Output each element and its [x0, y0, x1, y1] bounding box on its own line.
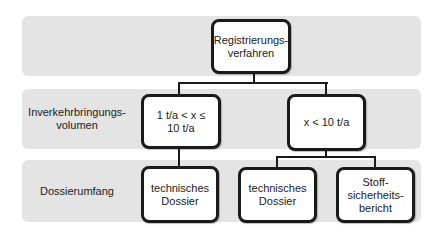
node-technical-dossier-right: technisches Dossier [238, 167, 317, 223]
connector-volume-low-down [178, 147, 180, 167]
connector-level1-horizontal [178, 82, 328, 84]
node-technical-dossier-left: technisches Dossier [141, 166, 219, 223]
band-label-dossier-scope: Dossierumfang [22, 160, 132, 222]
node-chemical-safety-report: Stoff- sicherheits- bericht [336, 167, 415, 223]
node-volume-1-to-10: 1 t/a < x ≤ 10 t/a [141, 94, 221, 149]
node-registration-procedure: Registrierungs- verfahren [211, 19, 291, 74]
band-label-volume: Inverkehrbringungs- volumen [22, 89, 132, 149]
connector-level2-horizontal [276, 156, 376, 158]
node-volume-below-10: x < 10 t/a [287, 94, 366, 151]
